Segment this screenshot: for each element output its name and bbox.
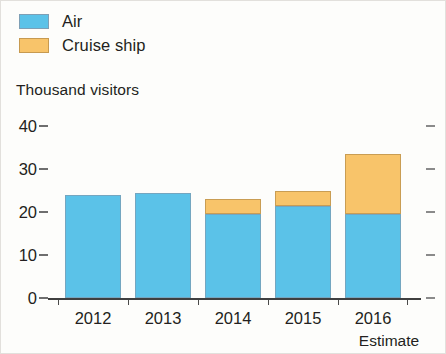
x-axis-tick-mark — [128, 300, 129, 305]
x-axis-tick-mark — [407, 300, 408, 305]
bar-segment-2016-cruise-ship — [345, 154, 401, 214]
plot-area: 01020304020122013201420152016Estimate — [1, 1, 446, 354]
y-axis-tick-mark-right — [426, 254, 435, 256]
y-axis-tick-mark — [39, 297, 48, 299]
y-axis-tick-label: 20 — [1, 203, 37, 222]
bar-segment-2015-air — [275, 206, 331, 298]
x-axis-tick-label-2012: 2012 — [75, 309, 112, 328]
x-axis-tick-mark — [268, 300, 269, 305]
bar-group-2013 — [135, 126, 191, 298]
bar-segment-2012-air — [65, 195, 121, 298]
x-axis-tick-mark — [198, 300, 199, 305]
bar-segment-2013-air — [135, 193, 191, 298]
y-axis-tick-label: 0 — [1, 289, 37, 308]
x-axis-tick-label-2014: 2014 — [215, 309, 252, 328]
x-axis-tick-label-2015: 2015 — [285, 309, 322, 328]
bar-group-2014 — [205, 126, 261, 298]
bar-segment-2014-air — [205, 214, 261, 298]
y-axis-tick-mark — [39, 254, 48, 256]
y-axis-tick-mark — [39, 168, 48, 170]
x-axis-tick-label-2016: 2016 — [355, 309, 392, 328]
bar-segment-2014-cruise-ship — [205, 199, 261, 214]
x-axis-tick-mark — [338, 300, 339, 305]
y-axis-tick-mark — [39, 125, 48, 127]
y-axis-tick-mark-right — [426, 211, 435, 213]
x-axis-line — [48, 298, 421, 300]
y-axis-tick-label: 10 — [1, 246, 37, 265]
estimate-annotation: Estimate — [359, 332, 419, 350]
bar-group-2016 — [345, 126, 401, 298]
y-axis-tick-mark — [39, 211, 48, 213]
bar-segment-2016-air — [345, 214, 401, 298]
y-axis-tick-mark-right — [426, 168, 435, 170]
x-axis-tick-label-2013: 2013 — [145, 309, 182, 328]
y-axis-tick-mark-right — [426, 125, 435, 127]
y-axis-tick-mark-right — [426, 297, 435, 299]
y-axis-tick-label: 40 — [1, 117, 37, 136]
y-axis-tick-label: 30 — [1, 160, 37, 179]
bar-group-2012 — [65, 126, 121, 298]
bar-segment-2015-cruise-ship — [275, 191, 331, 206]
chart-figure: Air Cruise ship Thousand visitors 010203… — [0, 0, 446, 354]
bar-group-2015 — [275, 126, 331, 298]
x-axis-tick-mark — [58, 300, 59, 305]
